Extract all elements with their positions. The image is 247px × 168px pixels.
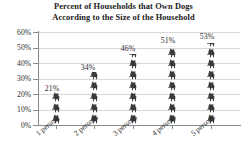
dog-pictogram-icon [128,70,139,81]
data-label-1-person: 21% [35,84,69,93]
dog-pictogram-icon [167,81,178,92]
dog-pictogram-icon [206,70,217,81]
x-tick-5 [211,126,212,129]
x-tick-1 [56,126,57,129]
dog-pictogram-icon [167,59,178,70]
chart-title-line-1: Percent of Households that Own Dogs [54,2,193,11]
y-tick-label-40: 40% [3,59,31,68]
chart-title: Percent of Households that Own Dogs Acco… [0,2,247,23]
chart-container: Percent of Households that Own Dogs Acco… [0,0,247,168]
y-tick-label-50: 50% [3,43,31,52]
y-tick-label-10: 10% [3,105,31,114]
x-tick-2 [94,126,95,129]
y-tick-label-20: 20% [3,90,31,99]
dog-pictogram-icon [128,59,139,70]
dog-pictogram-icon [51,103,62,114]
dog-pictogram-icon [167,70,178,81]
y-tick-label-60: 60% [3,28,31,37]
dog-pictogram-icon [167,92,178,103]
dog-pictogram-icon [89,72,100,81]
x-tick-4 [172,126,173,129]
dog-pictogram-icon [51,92,62,103]
data-label-5-persons: 53% [190,32,224,41]
dog-pictogram-icon [128,81,139,92]
data-label-2-persons: 34% [71,63,105,72]
dog-pictogram-icon [206,48,217,59]
dog-pictogram-icon [128,92,139,103]
dog-pictogram-icon [206,92,217,103]
chart-title-line-2: According to the Size of the Household [0,13,247,24]
data-label-3-persons: 46% [111,44,145,53]
y-tick-label-30: 30% [3,74,31,83]
dog-pictogram-icon [206,59,217,70]
dog-pictogram-icon [206,81,217,92]
dog-pictogram-icon [89,81,100,92]
x-axis-line [38,125,241,126]
data-label-4-persons: 51% [151,36,185,45]
x-tick-3 [133,126,134,129]
y-axis-line [38,31,39,126]
dog-pictogram-icon [167,48,178,59]
y-tick-label-0: 0% [3,121,31,130]
dog-pictogram-icon [89,92,100,103]
